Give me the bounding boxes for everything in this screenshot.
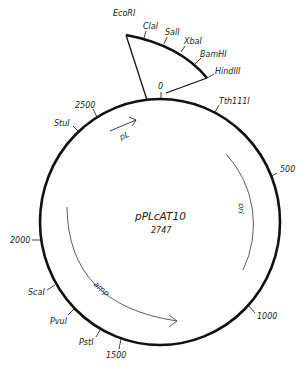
site-hindiii: HindIII [215, 67, 241, 76]
site-ecori: EcoRI [113, 9, 136, 18]
site-bamhi: BamHI [200, 50, 227, 59]
site-tth111i: Tth111I [219, 97, 250, 106]
scale-500: 500 [280, 165, 295, 174]
site-psti: PstI [79, 338, 94, 347]
feature-amp: amp [92, 280, 111, 298]
plasmid-map: EcoRI ClaI SalI XbaI BamHI HindIII 0 Tth… [0, 0, 305, 368]
amp-arrow [67, 207, 177, 327]
scale-1000: 1000 [257, 312, 277, 321]
feature-pl: pL [117, 130, 130, 142]
scale-0: 0 [158, 82, 163, 91]
site-clai: ClaI [143, 22, 159, 31]
plasmid-size: 2747 [151, 226, 172, 235]
site-sali: SalI [165, 28, 180, 37]
scale-2500: 2500 [75, 101, 95, 110]
plasmid-name: pPLcAT10 [134, 210, 186, 222]
site-scai: ScaI [28, 288, 45, 297]
scale-2000: 2000 [10, 236, 30, 245]
site-xbai: XbaI [183, 37, 202, 46]
plasmid-backbone [40, 99, 280, 345]
site-pvui: PvuI [50, 317, 68, 326]
feature-ori: ori [236, 203, 246, 215]
scale-1500: 1500 [106, 351, 126, 360]
site-stui: StuI [54, 119, 70, 128]
pl-promoter-arrow [110, 117, 136, 131]
